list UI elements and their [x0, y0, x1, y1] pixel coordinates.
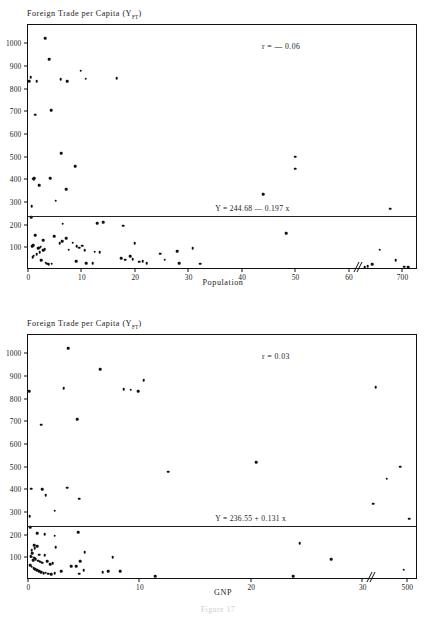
x-axis-tick-label: 20: [247, 584, 255, 591]
scatter-point: [75, 260, 78, 263]
scatter-point: [294, 156, 297, 159]
regression-equation-label-bottom: Y = 236.55 + 0.131 x: [215, 515, 286, 523]
y-axis-tick: 300: [24, 511, 28, 512]
scatter-point: [36, 545, 39, 548]
scatter-point: [285, 232, 288, 235]
scatter-point: [129, 389, 132, 392]
y-axis-tick: 300: [24, 201, 28, 202]
scatter-point: [122, 224, 125, 227]
x-axis-label-bottom: GNP: [214, 589, 232, 597]
y-axis-tick: 800: [24, 88, 28, 89]
regression-line: [28, 216, 416, 217]
scatter-point: [372, 502, 375, 505]
scatter-point: [84, 77, 87, 80]
y-axis-tick-label: 500: [10, 153, 22, 160]
y-axis-tick-label: 900: [10, 63, 22, 70]
regression-line: [28, 526, 416, 527]
scatter-point: [137, 390, 140, 393]
x-axis-tick: 30: [362, 578, 363, 582]
scatter-point: [31, 245, 34, 248]
scatter-point: [111, 556, 114, 559]
plot-area-top: [28, 25, 416, 268]
scatter-point: [76, 418, 79, 421]
scatter-point: [115, 77, 118, 80]
scatter-point: [74, 165, 77, 168]
y-axis-tick-label: 300: [10, 199, 22, 206]
x-axis-tick: 700: [401, 268, 402, 272]
y-axis-tick: 900: [24, 375, 28, 376]
scatter-point: [83, 249, 86, 252]
scatter-point: [61, 240, 64, 243]
scatter-point: [176, 250, 179, 253]
scatter-point: [53, 235, 56, 238]
y-axis-tick-label: 300: [10, 509, 22, 516]
scatter-point: [98, 251, 101, 254]
scatter-point: [61, 222, 64, 225]
scatter-point: [292, 575, 295, 578]
scatter-point: [138, 261, 141, 264]
y-axis-tick: 1000: [24, 353, 28, 354]
scatter-point: [142, 260, 145, 263]
scatter-point: [53, 510, 56, 513]
scatter-point: [81, 244, 84, 247]
correlation-label-top: r = — 0.06: [262, 43, 300, 51]
scatter-point: [38, 184, 41, 187]
scatter-point: [28, 390, 30, 393]
scatter-point: [35, 80, 38, 83]
y-axis-title-top-text: Foreign Trade per Capita (Y: [27, 9, 132, 18]
scatter-point: [32, 559, 35, 562]
y-axis-title-bottom-suffix: ): [138, 319, 141, 328]
scatter-point: [134, 242, 137, 245]
scatter-point: [72, 241, 75, 244]
y-axis-tick: 200: [24, 224, 28, 225]
scatter-point: [154, 575, 157, 578]
x-axis-tick: 20: [134, 268, 135, 272]
scatter-point: [30, 488, 33, 491]
x-axis-tick-label: 50: [292, 274, 300, 281]
scatter-point: [102, 221, 105, 224]
scatter-point: [51, 562, 54, 565]
scatter-point: [93, 251, 96, 254]
y-axis-tick-label: 600: [10, 131, 22, 138]
scatter-point: [67, 347, 70, 350]
y-axis-tick-label: 600: [10, 441, 22, 448]
scatter-point: [30, 205, 33, 208]
scatter-point: [65, 237, 68, 240]
scatter-point: [38, 553, 41, 556]
scatter-point: [67, 248, 70, 251]
scatter-point: [199, 262, 202, 265]
scatter-point: [28, 515, 31, 518]
x-axis-tick-label: 30: [185, 274, 193, 281]
x-axis-label-top: Population: [203, 279, 244, 287]
scatter-point: [330, 558, 333, 561]
scatter-point: [40, 259, 43, 262]
x-axis-tick-label: 700: [397, 274, 409, 281]
x-axis-tick: 0: [28, 268, 29, 272]
x-axis-tick: 10: [81, 268, 82, 272]
y-axis-tick-label: 100: [10, 244, 22, 251]
scatter-point: [32, 256, 35, 259]
scatter-point: [91, 262, 94, 265]
scatter-point: [62, 387, 65, 390]
x-axis-tick: 50: [295, 268, 296, 272]
y-axis-tick: 500: [24, 466, 28, 467]
figure-root: Foreign Trade per Capita (YFT) 100200300…: [0, 0, 436, 622]
regression-equation-label-top: Y = 244.68 — 0.197 x: [215, 205, 289, 213]
y-axis-tick-label: 100: [10, 554, 22, 561]
scatter-point: [60, 152, 63, 155]
y-axis-tick: 600: [24, 133, 28, 134]
scatter-point: [394, 259, 397, 262]
scatter-point: [262, 193, 265, 196]
y-axis-tick-label: 400: [10, 486, 22, 493]
scatter-point: [371, 263, 374, 266]
x-axis-tick: 0: [28, 578, 29, 582]
scatter-point: [163, 258, 166, 261]
scatter-point: [78, 572, 81, 575]
y-axis-tick-label: 800: [10, 395, 22, 402]
x-axis-tick: 30: [188, 268, 189, 272]
x-axis-tick-label: 0: [27, 584, 31, 591]
scatter-point: [40, 423, 43, 426]
scatter-point: [33, 547, 36, 550]
scatter-point: [36, 532, 39, 535]
figure-caption: Figure 17: [0, 606, 436, 614]
